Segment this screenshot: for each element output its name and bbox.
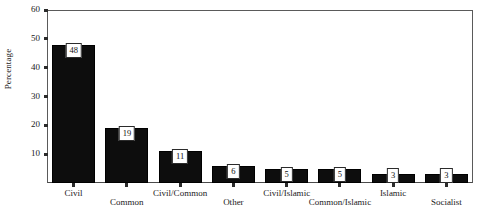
y-tick-label: 50 xyxy=(0,33,40,43)
bar-value-label: 5 xyxy=(334,167,346,182)
bar-group[interactable]: 6 xyxy=(212,10,255,183)
x-axis-label: Other xyxy=(223,197,244,207)
x-tick-mark xyxy=(338,183,341,187)
x-tick-mark xyxy=(179,183,182,187)
bar-group[interactable]: 3 xyxy=(372,10,415,183)
x-axis-label: Civil xyxy=(65,188,83,198)
y-tick-label: 40 xyxy=(0,62,40,72)
x-tick-mark xyxy=(392,183,395,187)
plot-area: 48191165533 xyxy=(47,10,473,183)
y-tick-label: 20 xyxy=(0,119,40,129)
bar-group[interactable]: 3 xyxy=(425,10,468,183)
x-axis-label: Common/Islamic xyxy=(309,197,372,207)
y-tick-label: 30 xyxy=(0,91,40,101)
bar-value-label: 48 xyxy=(65,43,82,58)
x-axis-label: Civil/Islamic xyxy=(263,188,310,198)
y-tick-label: 10 xyxy=(0,148,40,158)
bar-group[interactable]: 11 xyxy=(159,10,202,183)
y-tick-label: 60 xyxy=(0,4,40,14)
bar-value-label: 3 xyxy=(387,168,399,183)
x-axis-label: Civil/Common xyxy=(153,188,207,198)
x-tick-mark xyxy=(285,183,288,187)
x-tick-mark xyxy=(125,183,128,187)
bar-group[interactable]: 5 xyxy=(318,10,361,183)
bar-value-label: 5 xyxy=(281,167,293,182)
x-axis-label: Socialist xyxy=(431,197,462,207)
bar-group[interactable]: 19 xyxy=(105,10,148,183)
bar-group[interactable]: 5 xyxy=(265,10,308,183)
bar-group[interactable]: 48 xyxy=(52,10,95,183)
bar-value-label: 11 xyxy=(172,149,188,164)
x-tick-mark xyxy=(445,183,448,187)
bar-value-label: 19 xyxy=(119,126,136,141)
x-axis-label: Islamic xyxy=(380,188,407,198)
bar-chart: Percentage 102030405060 48191165533 Civi… xyxy=(0,0,479,209)
bar-value-label: 3 xyxy=(440,168,452,183)
x-axis-label: Common xyxy=(110,197,144,207)
bar[interactable] xyxy=(52,45,95,183)
x-tick-mark xyxy=(72,183,75,187)
x-tick-mark xyxy=(232,183,235,187)
bar-value-label: 6 xyxy=(227,164,239,179)
